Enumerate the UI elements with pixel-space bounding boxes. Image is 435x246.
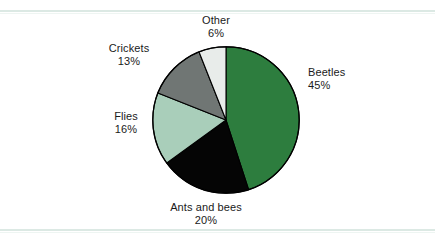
- pie-label-beetles-value: 45%: [308, 79, 345, 92]
- pie-chart-plot-area: [152, 46, 300, 194]
- bottom-divider-rule: [0, 229, 435, 231]
- pie-chart-figure: Beetles 45% Ants and bees 20% Flies 16% …: [0, 0, 435, 246]
- pie-label-crickets-name: Crickets: [109, 42, 150, 54]
- bottom-divider-rule-soft: [0, 232, 435, 233]
- pie-label-flies-name: Flies: [114, 110, 138, 122]
- pie-label-other-value: 6%: [186, 27, 246, 40]
- pie-label-ants-and-bees-name: Ants and bees: [170, 201, 242, 213]
- pie-label-flies-value: 16%: [104, 123, 148, 136]
- pie-label-ants-and-bees-value: 20%: [146, 214, 266, 227]
- pie-label-flies: Flies 16%: [104, 110, 148, 136]
- pie-svg: [152, 46, 300, 194]
- pie-label-ants-and-bees: Ants and bees 20%: [146, 201, 266, 227]
- pie-label-crickets-value: 13%: [96, 55, 162, 68]
- pie-label-other-name: Other: [202, 14, 230, 26]
- pie-label-other: Other 6%: [186, 14, 246, 40]
- pie-label-beetles-name: Beetles: [308, 66, 345, 78]
- pie-label-crickets: Crickets 13%: [96, 42, 162, 68]
- top-divider-rule: [0, 10, 435, 12]
- pie-slices: [153, 47, 299, 193]
- pie-label-beetles: Beetles 45%: [308, 66, 345, 92]
